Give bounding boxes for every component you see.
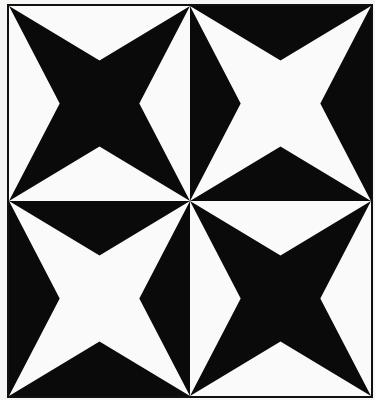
tile-grid <box>9 6 371 396</box>
tile-bottom-right <box>190 201 371 396</box>
tile-bottom-left <box>9 201 190 396</box>
artwork-root <box>0 0 375 400</box>
star-motif-top-left <box>9 6 190 201</box>
star-motif-top-right <box>190 6 371 201</box>
star-motif-bottom-right <box>190 201 371 396</box>
plate-frame <box>7 4 373 398</box>
tile-top-right <box>190 6 371 201</box>
tile-top-left <box>9 6 190 201</box>
star-motif-bottom-left <box>9 201 190 396</box>
